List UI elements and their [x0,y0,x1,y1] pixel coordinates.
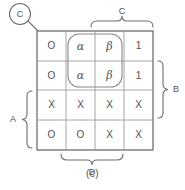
grid-cell-r3c2: X [66,90,95,120]
karnaugh-map-figure: O α β 1 O α β 1 X X X X O O X X C C B A … [0,0,185,190]
grid-cell-r1c3: β [95,31,124,61]
grid-cell-r3c1: X [37,90,66,120]
grid-cell-r2c4: 1 [124,61,153,90]
grid-cell-r2c3: β [95,61,124,90]
grid-cell-r4c3: X [95,120,124,150]
grid-cell-r4c4: X [124,120,153,150]
brace-bottom-d [61,154,123,165]
grid-cell-r4c2: O [66,120,95,150]
callout-label-c: C [10,4,30,24]
brace-top-c [91,16,153,27]
brace-label-left-a: A [6,113,20,125]
brace-right-b [158,61,168,118]
grid-cell-r2c2: α [66,61,95,90]
grid-cell-r4c1: O [37,120,66,150]
grid-cell-r1c2: α [66,31,95,61]
brace-label-top-c: C [112,5,132,17]
grid-cell-r1c4: 1 [124,31,153,61]
brace-left-a [22,91,32,148]
grid-cell-r3c3: X [95,90,124,120]
brace-label-right-b: B [169,83,183,95]
grid-cell-r2c1: O [37,61,66,90]
figure-caption: (c) [0,168,185,179]
grid-cell-r1c1: O [37,31,66,61]
grid-cell-r3c4: X [124,90,153,120]
